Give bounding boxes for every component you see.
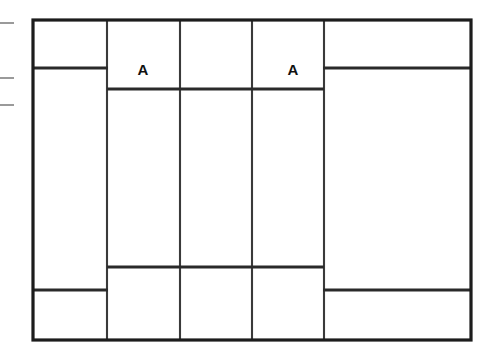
label-a-left: A	[138, 61, 149, 78]
diagram-canvas: A A	[0, 0, 496, 357]
label-a-right: A	[288, 61, 299, 78]
technical-line-diagram: A A	[0, 0, 496, 357]
